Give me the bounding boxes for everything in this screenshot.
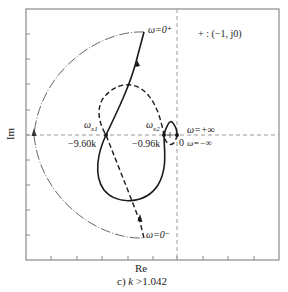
legend-critical-point: + : (−1, j0) — [198, 29, 242, 39]
label-w0minus: ω=0⁻ — [146, 230, 170, 240]
x-axis-label: Re — [135, 263, 147, 274]
label-w0plus: ω=0⁺ — [148, 25, 172, 35]
arc-arrow-icon — [32, 128, 37, 136]
label-wplusinf: ω=+∞ — [187, 125, 215, 135]
label-wx2: ωx2 — [146, 120, 160, 133]
solid-branch — [98, 32, 177, 201]
x-ticks — [51, 256, 254, 260]
label-p1: −9.60k — [68, 139, 96, 149]
crossing-point-wx2 — [162, 133, 166, 137]
label-wx1: ωx1 — [84, 120, 98, 133]
figure-caption: c) k >1.042 — [117, 276, 167, 287]
label-p2: −0.96k — [132, 139, 160, 149]
label-wminusinf: ω=−∞ — [187, 139, 212, 148]
crossing-point-wx1 — [104, 133, 108, 137]
y-axis-label: Im — [4, 128, 16, 140]
critical-point-icon — [167, 132, 173, 138]
label-origin: 0 — [179, 138, 184, 148]
